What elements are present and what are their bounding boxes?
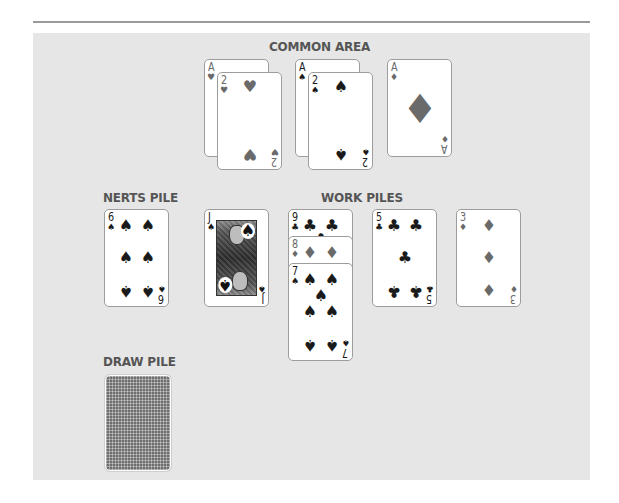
top-divider	[33, 21, 590, 23]
diamond-icon: ♦	[390, 73, 398, 82]
card-rank: 2	[362, 156, 368, 168]
spade-icon: ♠	[107, 223, 115, 232]
spade-icon: ♠	[324, 304, 340, 320]
jack-portrait: ♠ ♠	[216, 220, 257, 296]
spade-icon: ♠	[298, 73, 306, 82]
diamond-icon: ♦	[481, 283, 497, 299]
spade-icon: ♠	[333, 79, 349, 95]
card-rank: 2	[271, 156, 277, 168]
spade-icon: ♠	[324, 337, 340, 353]
spade-icon: ♠	[241, 223, 255, 239]
diamond-icon: ♦	[481, 218, 497, 234]
draw-pile-card-back[interactable]	[105, 375, 171, 471]
work-piles-label: WORK PILES	[321, 191, 403, 205]
diamond-icon: ♦	[302, 245, 318, 261]
heart-icon: ♥	[242, 146, 258, 162]
club-icon: ♣	[397, 250, 413, 266]
nerts-pile-top-card[interactable]: 6 ♠ ♠ ♠ ♠ ♠ ♠ ♠ ♠ 6	[104, 209, 169, 307]
heart-icon: ♥	[220, 86, 228, 95]
work-pile-1-card-1[interactable]: ♠ ♠ J ♠ ♠ J	[204, 209, 269, 307]
diamond-icon: ♦	[291, 250, 299, 259]
spade-icon: ♠	[291, 277, 299, 286]
common-pile-2-card-2[interactable]: 2 ♠ ♠ ♠ ♠ 2	[308, 72, 373, 170]
club-icon: ♣	[386, 218, 402, 234]
spade-icon: ♠	[140, 283, 156, 299]
diamond-icon: ♦	[324, 245, 340, 261]
club-icon: ♣	[408, 283, 424, 299]
club-icon: ♣	[408, 218, 424, 234]
club-icon: ♣	[375, 223, 383, 232]
card-rank: 3	[510, 293, 516, 305]
spade-icon: ♠	[218, 277, 232, 293]
work-pile-2-card-3[interactable]: 7 ♠ ♠ ♠ ♠ ♠ ♠ ♠ ♠ ♠ 7	[288, 263, 353, 361]
spade-icon: ♠	[118, 250, 134, 266]
spade-icon: ♠	[311, 86, 319, 95]
spade-icon: ♠	[333, 146, 349, 162]
draw-pile-label: DRAW PILE	[103, 355, 176, 369]
spade-icon: ♠	[140, 218, 156, 234]
diamond-icon: ♦	[459, 223, 467, 232]
card-rank: 6	[158, 293, 164, 305]
heart-icon: ♥	[207, 73, 215, 82]
spade-icon: ♠	[140, 250, 156, 266]
card-rank: A	[441, 143, 448, 155]
common-area-label: COMMON AREA	[269, 40, 370, 54]
common-pile-3-card-1[interactable]: A ♦ ♦ ♦ A	[387, 59, 452, 157]
card-rank: 7	[342, 347, 348, 359]
common-pile-1-card-2[interactable]: 2 ♥ ♥ ♥ ♥ 2	[217, 72, 282, 170]
diamond-icon: ♦	[400, 89, 440, 129]
work-pile-3-card-1[interactable]: 5 ♣ ♣ ♣ ♣ ♣ ♣ ♣ 5	[372, 209, 437, 307]
card-rank: J	[262, 293, 265, 305]
heart-icon: ♥	[242, 79, 258, 95]
work-pile-4-card-1[interactable]: 3 ♦ ♦ ♦ ♦ ♦ 3	[456, 209, 521, 307]
diamond-icon: ♦	[481, 250, 497, 266]
spade-icon: ♠	[302, 304, 318, 320]
nerts-pile-label: NERTS PILE	[103, 191, 178, 205]
spade-icon: ♠	[207, 223, 215, 232]
club-icon: ♣	[291, 223, 299, 232]
club-icon: ♣	[386, 283, 402, 299]
spade-icon: ♠	[118, 283, 134, 299]
card-rank: 5	[426, 293, 432, 305]
spade-icon: ♠	[118, 218, 134, 234]
spade-icon: ♠	[302, 337, 318, 353]
